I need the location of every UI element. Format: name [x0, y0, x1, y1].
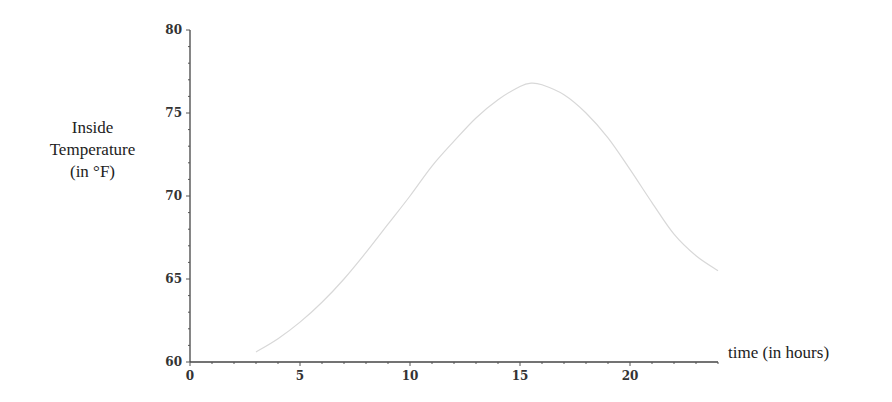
x-tick-label: 20 [622, 369, 639, 383]
y-tick-label: 65 [165, 272, 182, 286]
y-tick-label: 60 [165, 355, 182, 369]
y-tick-label: 75 [165, 106, 182, 120]
x-tick-label: 0 [186, 369, 194, 383]
tick-labels: 051015206065707580 [165, 23, 638, 383]
axes [186, 30, 718, 366]
x-tick-label: 10 [402, 369, 419, 383]
x-tick-label: 15 [512, 369, 529, 383]
y-tick-label: 80 [165, 23, 182, 37]
chart-plot-area: 051015206065707580 [0, 0, 892, 402]
x-tick-label: 5 [296, 369, 304, 383]
y-tick-label: 70 [165, 189, 182, 203]
temperature-curve [256, 83, 718, 352]
